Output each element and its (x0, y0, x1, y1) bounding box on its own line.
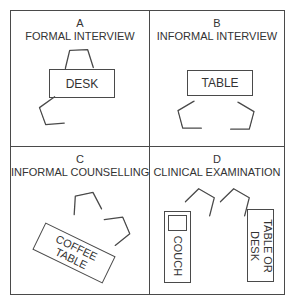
panel-c-letter: C (11, 153, 149, 166)
table-or-desk-label-line2: DESK (248, 219, 261, 273)
coffee-table-shape: COFFEE TABLE (32, 222, 115, 283)
panel-c-title: INFORMAL COUNSELLING (11, 166, 149, 179)
desk-shape: DESK (49, 69, 115, 98)
four-panel-seating-diagram: A FORMAL INTERVIEW DESK B INFORMAL INTER… (10, 10, 285, 295)
horizontal-divider (11, 146, 284, 147)
chair-icon (36, 95, 65, 130)
panel-a-header: A FORMAL INTERVIEW (11, 17, 149, 43)
panel-c-header: C INFORMAL COUNSELLING (11, 153, 149, 179)
chair-icon (175, 100, 202, 134)
desk-label: DESK (66, 77, 99, 91)
couch-pillow (168, 215, 187, 231)
panel-d-header: D CLINICAL EXAMINATION (148, 153, 286, 179)
panel-a-letter: A (11, 17, 149, 30)
panel-d-letter: D (148, 153, 286, 166)
panel-a-title: FORMAL INTERVIEW (11, 30, 149, 43)
table-shape: TABLE (187, 70, 253, 96)
panel-b-title: INFORMAL INTERVIEW (148, 30, 286, 43)
figure-canvas: A FORMAL INTERVIEW DESK B INFORMAL INTER… (0, 0, 295, 308)
table-or-desk-label-line1: TABLE OR (261, 219, 274, 273)
table-label: TABLE (201, 76, 238, 90)
chair-icon (229, 101, 256, 135)
chair-icon (64, 48, 95, 69)
table-or-desk-shape: TABLE OR DESK (247, 209, 274, 282)
panel-b-header: B INFORMAL INTERVIEW (148, 17, 286, 43)
couch-shape: COUCH (164, 211, 191, 283)
couch-label: COUCH (172, 236, 184, 276)
chair-icon (69, 190, 103, 216)
table-or-desk-label: TABLE OR DESK (248, 219, 274, 273)
panel-d-title: CLINICAL EXAMINATION (148, 166, 286, 179)
chair-icon (103, 211, 133, 246)
panel-b-letter: B (148, 17, 286, 30)
